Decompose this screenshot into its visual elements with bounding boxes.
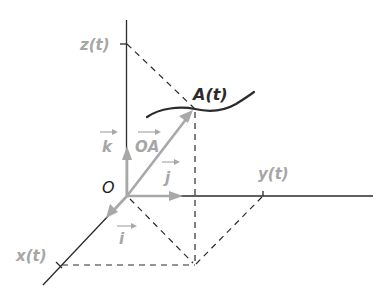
- unit-vectors: [106, 110, 193, 218]
- y-to-base-dash: [196, 197, 262, 264]
- point-A-label: A(t): [191, 85, 228, 104]
- z-to-A-dash: [127, 44, 195, 109]
- origin-label: O: [102, 178, 115, 197]
- x-label: x(t): [15, 247, 47, 265]
- vector-OA: [127, 118, 187, 196]
- vector-OA-head: [179, 110, 193, 123]
- label-OA-group: OA: [135, 129, 161, 156]
- label-k-group: k: [100, 129, 118, 156]
- k-label: k: [102, 138, 113, 156]
- OA-label: OA: [135, 138, 159, 156]
- axes: [43, 20, 373, 285]
- y-label: y(t): [258, 165, 289, 183]
- vector-j-head: [169, 191, 183, 201]
- label-j-group: j: [162, 159, 180, 187]
- z-label: z(t): [79, 36, 110, 54]
- vector-diagram: z(t) y(t) x(t) A(t) O k OA j i: [0, 0, 388, 305]
- j-label: j: [163, 169, 171, 187]
- projection-lines: [62, 44, 262, 265]
- vector-k-head: [122, 146, 132, 160]
- vector-i: [113, 196, 127, 211]
- label-i-group: i: [117, 223, 137, 248]
- origin-to-base-dash: [130, 199, 193, 263]
- i-label: i: [119, 230, 125, 248]
